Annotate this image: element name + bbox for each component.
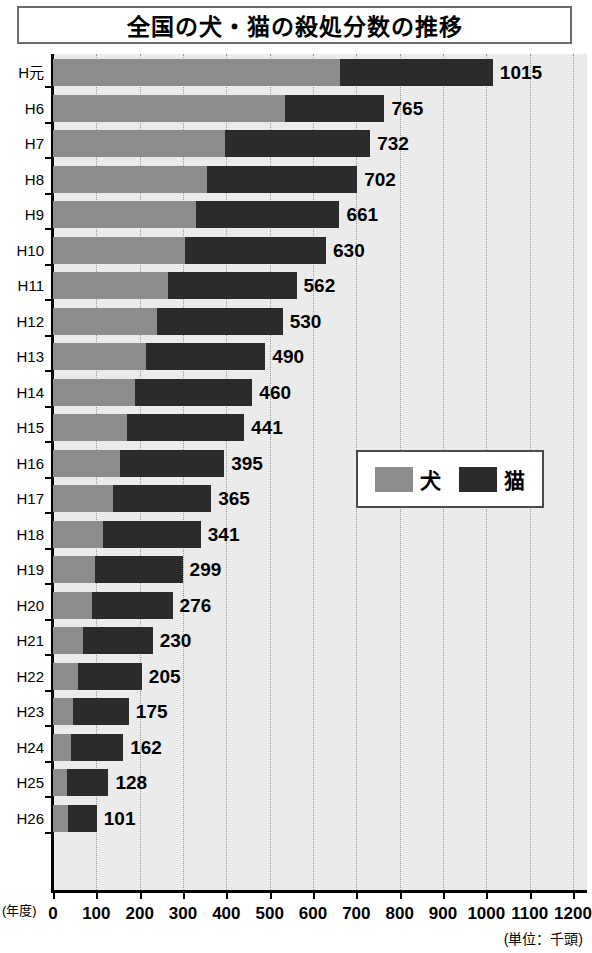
y-tick-H21 — [45, 654, 52, 656]
bar-segment-cat[interactable] — [225, 130, 370, 157]
x-axis-label-800: 800 — [385, 904, 413, 924]
bar-segment-dog[interactable] — [53, 95, 285, 122]
x-tick-800 — [400, 893, 402, 899]
y-axis-unit-label: (年度) — [2, 900, 37, 919]
bar-row: H22205 — [0, 663, 587, 690]
bar-segment-dog[interactable] — [53, 556, 95, 583]
bar-segment-dog[interactable] — [53, 272, 168, 299]
stacked-bar[interactable] — [53, 379, 252, 406]
y-tick-H18 — [45, 548, 52, 550]
bar-segment-dog[interactable] — [53, 59, 340, 86]
bar-segment-cat[interactable] — [92, 592, 173, 619]
stacked-bar[interactable] — [53, 414, 244, 441]
bar-segment-cat[interactable] — [103, 521, 201, 548]
bar-segment-dog[interactable] — [53, 130, 225, 157]
y-axis-label-H11: H11 — [0, 272, 44, 299]
bar-row: H元1015 — [0, 59, 587, 86]
stacked-bar[interactable] — [53, 450, 224, 477]
bar-value-label: 365 — [211, 485, 250, 512]
y-tick-H19 — [45, 583, 52, 585]
bar-segment-dog[interactable] — [53, 201, 196, 228]
stacked-bar[interactable] — [53, 521, 201, 548]
bar-value-label: 732 — [370, 130, 409, 157]
bar-segment-dog[interactable] — [53, 663, 78, 690]
bar-row: H25128 — [0, 769, 587, 796]
stacked-bar[interactable] — [53, 627, 153, 654]
stacked-bar[interactable] — [53, 556, 183, 583]
x-tick-200 — [140, 893, 142, 899]
x-axis-unit-label: (単位：千頭) — [504, 928, 583, 948]
bar-value-label: 630 — [326, 237, 365, 264]
bar-row: H18341 — [0, 521, 587, 548]
bar-row: H23175 — [0, 698, 587, 725]
bar-value-label: 205 — [142, 663, 181, 690]
stacked-bar[interactable] — [53, 343, 265, 370]
y-tick-H16 — [45, 477, 52, 479]
bar-segment-cat[interactable] — [185, 237, 326, 264]
bar-segment-dog[interactable] — [53, 734, 71, 761]
bar-segment-dog[interactable] — [53, 237, 185, 264]
y-axis-label-H25: H25 — [0, 769, 44, 796]
bar-segment-dog[interactable] — [53, 769, 67, 796]
stacked-bar[interactable] — [53, 272, 297, 299]
stacked-bar[interactable] — [53, 769, 108, 796]
bar-segment-cat[interactable] — [95, 556, 182, 583]
stacked-bar[interactable] — [53, 734, 123, 761]
y-axis-label-H16: H16 — [0, 450, 44, 477]
stacked-bar[interactable] — [53, 592, 173, 619]
bar-segment-cat[interactable] — [78, 663, 142, 690]
stacked-bar[interactable] — [53, 237, 326, 264]
stacked-bar[interactable] — [53, 805, 97, 832]
stacked-bar[interactable] — [53, 698, 129, 725]
bar-segment-cat[interactable] — [120, 450, 224, 477]
bar-segment-cat[interactable] — [157, 308, 283, 335]
bar-segment-dog[interactable] — [53, 414, 127, 441]
bar-segment-cat[interactable] — [127, 414, 244, 441]
stacked-bar[interactable] — [53, 308, 283, 335]
bar-segment-cat[interactable] — [113, 485, 211, 512]
x-axis-label-600: 600 — [299, 904, 327, 924]
stacked-bar[interactable] — [53, 95, 385, 122]
stacked-bar[interactable] — [53, 201, 339, 228]
bar-segment-dog[interactable] — [53, 485, 113, 512]
bar-segment-dog[interactable] — [53, 343, 146, 370]
y-tick-H14 — [45, 406, 52, 408]
bar-segment-cat[interactable] — [168, 272, 297, 299]
bar-row: H7732 — [0, 130, 587, 157]
bar-segment-cat[interactable] — [285, 95, 385, 122]
bar-segment-dog[interactable] — [53, 592, 92, 619]
stacked-bar[interactable] — [53, 130, 370, 157]
bar-segment-cat[interactable] — [67, 769, 108, 796]
bar-segment-cat[interactable] — [71, 734, 123, 761]
bar-segment-cat[interactable] — [146, 343, 265, 370]
y-axis-label-H14: H14 — [0, 379, 44, 406]
bar-segment-cat[interactable] — [73, 698, 129, 725]
x-axis-label-300: 300 — [169, 904, 197, 924]
bar-row: H8702 — [0, 166, 587, 193]
stacked-bar[interactable] — [53, 485, 211, 512]
y-axis-label-H元: H元 — [0, 59, 44, 86]
bar-segment-cat[interactable] — [83, 627, 153, 654]
bar-segment-dog[interactable] — [53, 166, 207, 193]
bar-segment-dog[interactable] — [53, 379, 135, 406]
bar-segment-dog[interactable] — [53, 627, 83, 654]
bar-value-label: 441 — [244, 414, 283, 441]
y-axis-label-H6: H6 — [0, 95, 44, 122]
bar-segment-cat[interactable] — [68, 805, 97, 832]
bar-segment-cat[interactable] — [207, 166, 357, 193]
bar-segment-cat[interactable] — [135, 379, 252, 406]
bar-segment-dog[interactable] — [53, 698, 73, 725]
bar-segment-cat[interactable] — [196, 201, 339, 228]
bar-segment-dog[interactable] — [53, 308, 157, 335]
bar-segment-cat[interactable] — [340, 59, 493, 86]
bar-segment-dog[interactable] — [53, 805, 68, 832]
bar-value-label: 101 — [97, 805, 136, 832]
stacked-bar[interactable] — [53, 166, 357, 193]
bar-segment-dog[interactable] — [53, 521, 103, 548]
bar-row: H26101 — [0, 805, 587, 832]
stacked-bar[interactable] — [53, 663, 142, 690]
y-axis-label-H17: H17 — [0, 485, 44, 512]
bar-segment-dog[interactable] — [53, 450, 120, 477]
stacked-bar[interactable] — [53, 59, 493, 86]
bar-value-label: 162 — [123, 734, 162, 761]
